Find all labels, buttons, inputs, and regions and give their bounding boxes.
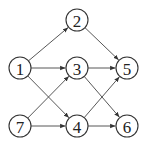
node-label: 4 — [73, 118, 82, 137]
node-label: 7 — [16, 118, 25, 137]
node-5: 5 — [116, 57, 138, 79]
node-4: 4 — [66, 115, 88, 137]
node-6: 6 — [116, 115, 138, 137]
node-label: 3 — [73, 60, 82, 79]
node-1: 1 — [9, 57, 31, 79]
node-label: 6 — [123, 118, 132, 137]
node-label: 2 — [73, 12, 82, 31]
node-7: 7 — [9, 115, 31, 137]
node-2: 2 — [66, 9, 88, 31]
node-label: 1 — [16, 60, 25, 79]
edge-1-to-2 — [28, 27, 68, 61]
graph-svg: 1234567 — [0, 0, 152, 147]
edge-2-to-5 — [85, 28, 119, 60]
node-label: 5 — [123, 60, 132, 79]
graph-diagram: 1234567 — [0, 0, 152, 147]
node-3: 3 — [66, 57, 88, 79]
